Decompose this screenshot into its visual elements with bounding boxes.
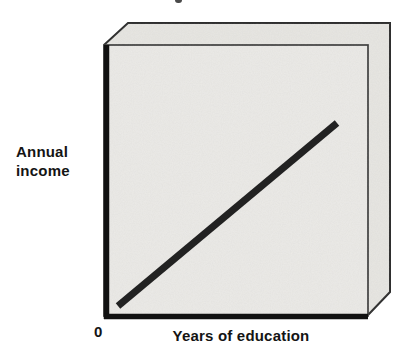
chart-3d-box	[0, 0, 404, 362]
x-axis-label: Years of education	[131, 326, 351, 345]
paper-noise-texture	[104, 23, 390, 321]
origin-tick-label: 0	[94, 322, 103, 341]
y-axis-label: Annual income	[16, 142, 90, 180]
figure-canvas: Annual income 0 Years of education	[0, 0, 404, 362]
